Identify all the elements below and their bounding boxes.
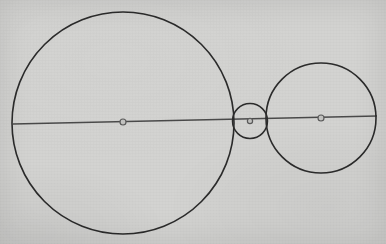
figure-canvas [0,0,386,244]
small-circle-center-marker [247,118,252,123]
circles-diagram [0,0,386,244]
medium-circle-center-marker [318,115,324,121]
large-circle-center-marker [120,119,126,125]
